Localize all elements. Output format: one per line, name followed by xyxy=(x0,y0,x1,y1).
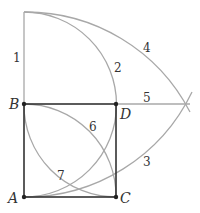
vertex-c-dot xyxy=(114,195,118,199)
label-5: 5 xyxy=(143,91,151,105)
square-abcd xyxy=(24,104,116,197)
geometry-diagram: B D A C 1 2 3 4 5 6 7 xyxy=(0,0,200,213)
construction-arc-6 xyxy=(24,104,116,197)
label-4: 4 xyxy=(143,41,151,55)
construction-arc-7 xyxy=(24,104,116,197)
label-b: B xyxy=(8,96,19,112)
label-d: D xyxy=(119,106,131,122)
label-7: 7 xyxy=(57,169,65,183)
label-2: 2 xyxy=(114,61,122,75)
vertex-a-dot xyxy=(22,195,26,199)
label-1: 1 xyxy=(13,51,21,65)
vertex-d-dot xyxy=(114,102,118,106)
label-a: A xyxy=(6,190,18,206)
label-6: 6 xyxy=(89,120,97,134)
vertex-b-dot xyxy=(22,102,26,106)
construction-arc-4 xyxy=(24,12,190,112)
label-3: 3 xyxy=(143,155,151,169)
label-c: C xyxy=(120,190,131,206)
